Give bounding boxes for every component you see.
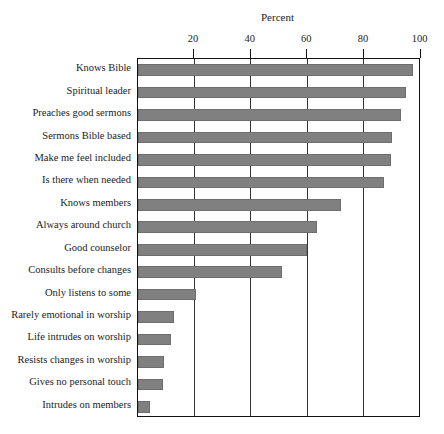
bar-row [138, 396, 419, 418]
bar [138, 244, 308, 256]
bar-row [138, 126, 419, 148]
bar [138, 132, 393, 144]
bar [138, 87, 407, 99]
category-label: Only listens to some [0, 287, 131, 298]
category-label: Make me feel included [0, 152, 131, 163]
x-tick-label: 80 [358, 33, 369, 44]
bar [138, 289, 196, 301]
chart-title: Percent [136, 11, 419, 23]
bar [138, 154, 391, 166]
x-tick-label: 20 [188, 33, 199, 44]
x-tick-mark [193, 49, 194, 58]
x-tick-mark [306, 49, 307, 58]
x-tick-label: 40 [244, 33, 255, 44]
category-label: Good counselor [0, 242, 131, 253]
category-label: Spiritual leader [0, 85, 131, 96]
x-tick-mark [250, 49, 251, 58]
bar [138, 311, 175, 323]
bar-row [138, 261, 419, 283]
bar-chart: Percent 20406080100 Knows BibleSpiritual… [0, 0, 444, 434]
category-label: Intrudes on members [0, 399, 131, 410]
bar [138, 221, 318, 233]
bar-row [138, 306, 419, 328]
bar-row [138, 373, 419, 395]
x-tick-label: 60 [301, 33, 312, 44]
bar-row [138, 194, 419, 216]
bar [138, 199, 342, 211]
bar-row [138, 59, 419, 81]
category-label: Gives no personal touch [0, 376, 131, 387]
x-tick-mark [363, 49, 364, 58]
bar [138, 266, 282, 278]
bar [138, 177, 384, 189]
category-label: Always around church [0, 219, 131, 230]
category-label: Sermons Bible based [0, 130, 131, 141]
bar [138, 64, 414, 76]
category-label: Rarely emotional in worship [0, 309, 131, 320]
plot-area [137, 58, 420, 417]
bar-row [138, 351, 419, 373]
bar-row [138, 216, 419, 238]
bar-row [138, 328, 419, 350]
category-label: Life intrudes on worship [0, 331, 131, 342]
bar-row [138, 171, 419, 193]
x-tick-mark [420, 49, 421, 58]
category-label: Knows members [0, 197, 131, 208]
x-tick-label: 100 [412, 33, 428, 44]
category-label: Consults before changes [0, 264, 131, 275]
bar-row [138, 239, 419, 261]
category-label: Is there when needed [0, 174, 131, 185]
bar [138, 109, 401, 121]
bar [138, 334, 172, 346]
bar-row [138, 149, 419, 171]
bar [138, 401, 151, 413]
category-label: Preaches good sermons [0, 107, 131, 118]
bar-row [138, 81, 419, 103]
bar-row [138, 104, 419, 126]
bar-row [138, 283, 419, 305]
category-label: Resists changes in worship [0, 354, 131, 365]
category-label: Knows Bible [0, 62, 131, 73]
bar [138, 379, 163, 391]
bar [138, 356, 165, 368]
